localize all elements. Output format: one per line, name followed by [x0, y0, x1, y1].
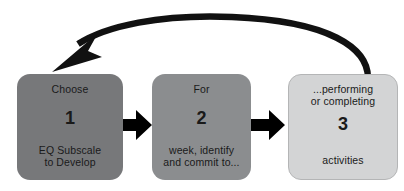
step-3-caption: ...performing or completing	[311, 83, 375, 107]
right-arrow-icon	[250, 108, 286, 142]
process-step-1: Choose 1 EQ Subscale to Develop	[17, 74, 123, 180]
step-2-detail: week, identify and commit to...	[163, 145, 239, 168]
step-2-caption: For	[193, 83, 209, 95]
step-3-detail: activities	[322, 155, 363, 167]
process-step-2: For 2 week, identify and commit to...	[152, 74, 251, 180]
step-1-detail: EQ Subscale to Develop	[39, 145, 101, 168]
step-3-number: 3	[338, 114, 348, 134]
process-flow-diagram: Choose 1 EQ Subscale to Develop For 2 we…	[0, 0, 404, 191]
step-2-number: 2	[196, 108, 206, 128]
step-1-number: 1	[65, 108, 75, 128]
step-1-caption: Choose	[52, 83, 89, 95]
process-step-3: ...performing or completing 3 activities	[288, 74, 398, 180]
